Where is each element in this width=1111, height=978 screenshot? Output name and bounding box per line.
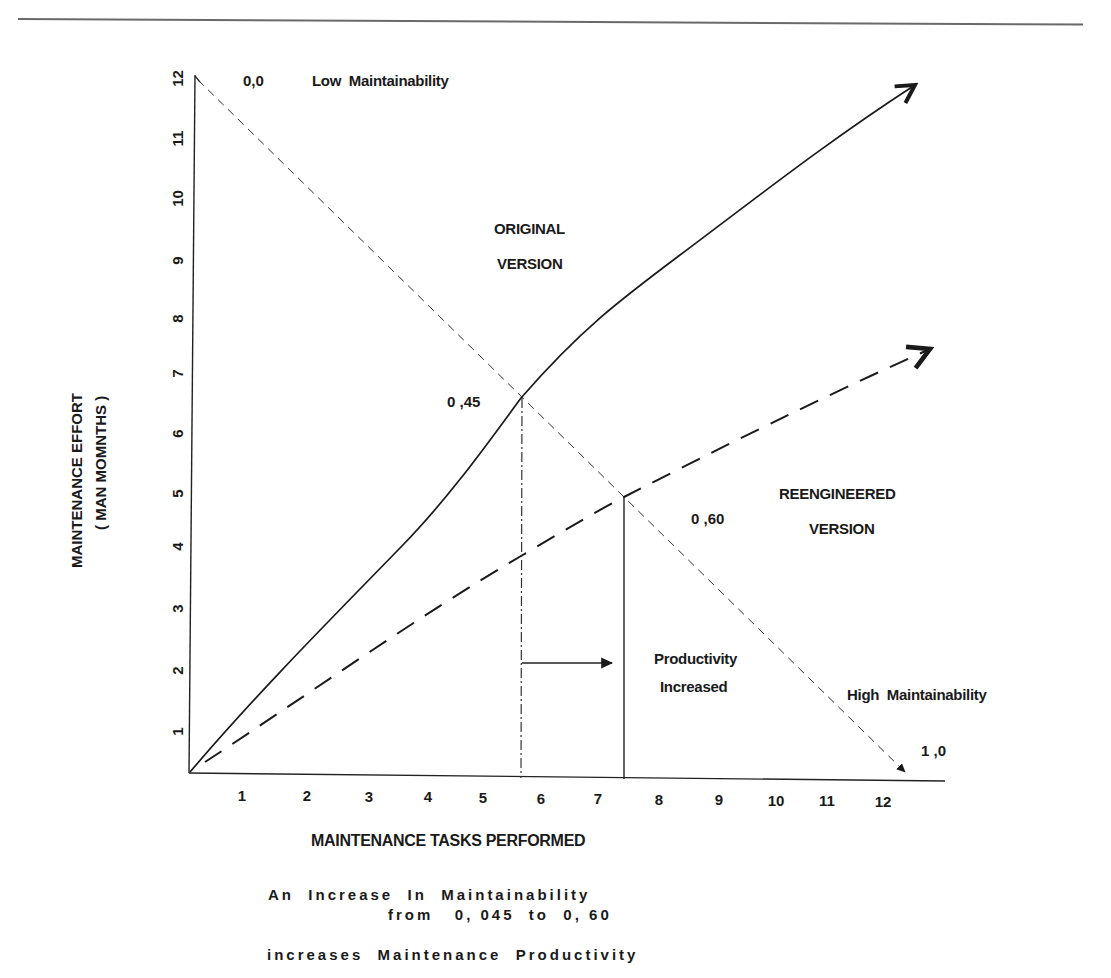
caption-line1: An Increase In Maintainability <box>268 886 590 903</box>
x-tick: 4 <box>416 788 440 805</box>
x-tick: 1 <box>230 787 254 804</box>
label-point-045: 0 ,45 <box>447 393 480 410</box>
y-tick: 5 <box>169 482 186 506</box>
caption-line2: from 0, 045 to 0, 60 <box>388 906 612 923</box>
y-tick: 11 <box>169 127 186 151</box>
x-tick: 11 <box>815 792 839 809</box>
label-productivity-line1: Productivity <box>654 650 737 667</box>
y-tick: 7 <box>169 362 186 386</box>
y-tick: 8 <box>169 307 186 331</box>
y-tick: 3 <box>169 597 186 621</box>
x-tick: 10 <box>764 792 788 809</box>
label-original-line1: ORIGINAL <box>494 220 565 237</box>
label-point-060: 0 ,60 <box>691 510 724 527</box>
reengineered-version-curve <box>205 349 930 762</box>
maintainability-diagonal <box>198 80 905 772</box>
x-tick: 3 <box>357 788 381 805</box>
y-axis-label-line1: MAINTENANCE EFFORT <box>68 393 85 568</box>
y-tick: 12 <box>169 67 186 91</box>
x-tick: 5 <box>471 789 495 806</box>
x-tick: 9 <box>707 791 731 808</box>
y-tick: 10 <box>169 187 186 211</box>
label-productivity-line2: Increased <box>660 678 727 695</box>
original-version-curve <box>190 85 915 772</box>
label-high-maintainability: High Maintainability <box>847 686 987 703</box>
label-original-line2: VERSION <box>497 255 562 272</box>
y-tick: 9 <box>169 249 186 273</box>
x-tick: 2 <box>295 787 319 804</box>
label-reengineered-line2: VERSION <box>809 520 874 537</box>
x-tick: 6 <box>529 790 553 807</box>
x-axis-label: MAINTENANCE TASKS PERFORMED <box>311 832 585 850</box>
y-axis <box>189 75 195 773</box>
label-point-10: 1 ,0 <box>921 742 946 759</box>
y-tick: 4 <box>169 535 186 559</box>
caption-line3: increases Maintenance Productivity <box>267 946 638 963</box>
x-tick: 12 <box>871 793 895 810</box>
x-axis <box>189 773 945 781</box>
label-top-left-point: 0,0 <box>243 72 264 89</box>
dash-dot-vertical-045 <box>521 398 522 778</box>
x-tick: 8 <box>647 791 671 808</box>
y-tick: 1 <box>169 720 186 744</box>
y-tick: 2 <box>169 659 186 683</box>
label-reengineered-line1: REENGINEERED <box>779 485 895 502</box>
label-low-maintainability: Low Maintainability <box>312 72 449 89</box>
y-axis-label-line2: ( MAN MOMNTHS ) <box>92 396 109 530</box>
x-tick: 7 <box>586 790 610 807</box>
y-tick: 6 <box>169 422 186 446</box>
